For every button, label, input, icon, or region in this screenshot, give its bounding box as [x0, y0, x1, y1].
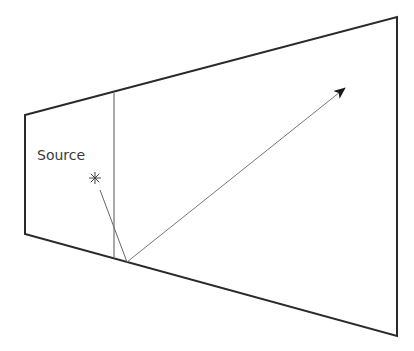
source-label: Source — [37, 147, 85, 163]
reflection-diagram: Source — [0, 0, 414, 351]
trapezoid-boundary — [25, 17, 397, 336]
source-star-icon — [89, 172, 101, 184]
reflected-ray-arrow — [127, 88, 345, 262]
